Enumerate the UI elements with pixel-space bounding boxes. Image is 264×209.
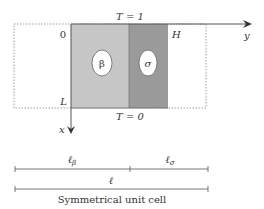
y-axis-label: y: [243, 30, 250, 41]
dim-sigma-label: ℓσ: [166, 154, 175, 167]
beta-label: β: [99, 58, 105, 69]
bottom-boundary-label: T = 0: [116, 111, 144, 122]
x-axis-label: x: [59, 124, 65, 135]
origin-label: 0: [60, 29, 66, 40]
caption: Symmetrical unit cell: [58, 194, 167, 205]
dim-beta-label: ℓβ: [68, 154, 76, 167]
unit-cell-diagram: β σ T = 1 T = 0 0 L H y x ℓβ ℓσ ℓ Symmet…: [0, 0, 264, 209]
height-label: H: [171, 29, 181, 40]
length-label: L: [59, 96, 67, 107]
dim-total-label: ℓ: [109, 175, 113, 186]
sigma-label: σ: [145, 58, 153, 69]
top-boundary-label: T = 1: [116, 11, 144, 22]
